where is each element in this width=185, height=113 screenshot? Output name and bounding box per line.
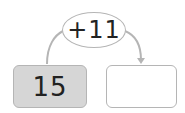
start-value-box: 15 bbox=[13, 65, 87, 108]
operation-oval: +11 bbox=[62, 12, 126, 48]
number-machine-diagram: +11 15 bbox=[0, 0, 185, 113]
arrow-head-icon bbox=[137, 58, 145, 64]
result-answer-box[interactable] bbox=[106, 65, 177, 108]
